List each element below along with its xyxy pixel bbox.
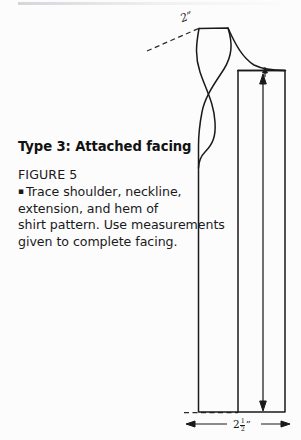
dimension-label-shoulder-width: 2” (178, 8, 194, 25)
caption-line-3: shirt pattern. Use measurements (18, 217, 223, 234)
caption-line-4: given to complete facing. (18, 234, 223, 251)
instruction-text-block: Type 3: Attached facing FIGURE 5 ▪Trace … (18, 140, 223, 251)
page-canvas: 2” 212” Type 3: Attached facing FIGURE 5… (0, 0, 301, 440)
inch-mark: ” (246, 419, 251, 430)
section-heading: Type 3: Attached facing (18, 140, 223, 155)
figure-label: FIGURE 5 (18, 168, 223, 182)
fraction-one-half: 12 (240, 418, 245, 432)
figure-caption: ▪Trace shoulder, neckline, extension, an… (18, 184, 223, 251)
neckline-curve-path (228, 28, 285, 71)
bullet-glyph-icon: ▪ (18, 186, 24, 196)
caption-line-1: ▪Trace shoulder, neckline, (18, 184, 223, 201)
grainline-arrow (260, 74, 267, 411)
fraction-denominator: 2 (240, 426, 245, 433)
dimension-label-facing-width: 212” (233, 418, 251, 432)
top-tick-arrow (262, 68, 269, 78)
caption-line-2: extension, and hem of (18, 201, 223, 218)
scan-artifact-strip (18, 2, 283, 5)
caption-line-1-text: Trace shoulder, neckline, (26, 184, 182, 199)
shoulder-guide-dashed-line (147, 29, 199, 52)
